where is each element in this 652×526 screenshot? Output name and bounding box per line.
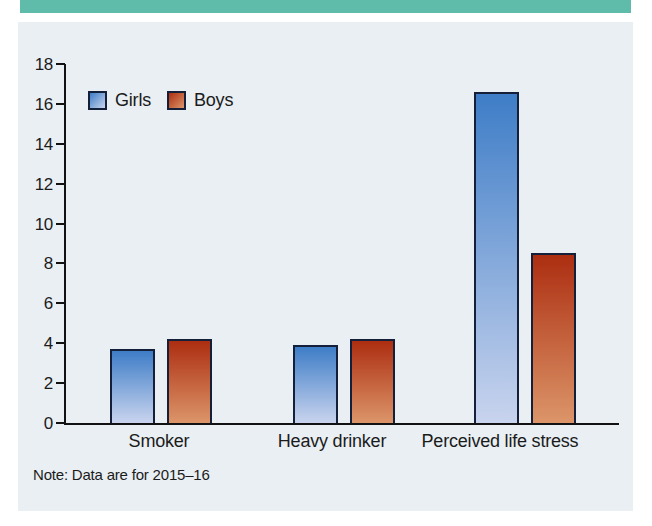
y-tick-label: 0	[13, 415, 53, 432]
y-tick-label: 2	[13, 375, 53, 392]
bar-girls-heavy-drinker	[293, 345, 338, 423]
y-tick-label: 16	[13, 96, 53, 113]
y-axis-tick	[56, 262, 65, 264]
bar-boys-smoker	[167, 339, 212, 423]
bar-girls-smoker	[110, 349, 155, 423]
y-axis-tick	[56, 143, 65, 145]
chart-panel: GirlsBoys 024681012141618SmokerHeavy dri…	[18, 22, 633, 511]
y-tick-label: 12	[13, 176, 53, 193]
y-axis-tick	[56, 302, 65, 304]
y-tick-label: 18	[13, 56, 53, 73]
y-tick-label: 14	[13, 136, 53, 153]
bar-girls-perceived-life-stress	[474, 92, 519, 423]
bar-boys-heavy-drinker	[350, 339, 395, 423]
y-tick-label: 4	[13, 335, 53, 352]
y-tick-label: 8	[13, 255, 53, 272]
y-axis-tick	[56, 422, 65, 424]
plot-area: 024681012141618SmokerHeavy drinkerPercei…	[65, 64, 618, 423]
y-axis-tick	[56, 382, 65, 384]
y-axis-tick	[56, 223, 65, 225]
top-accent-band	[20, 0, 631, 13]
bar-boys-perceived-life-stress	[531, 253, 576, 423]
page: GirlsBoys 024681012141618SmokerHeavy dri…	[0, 0, 652, 526]
y-tick-label: 10	[13, 216, 53, 233]
y-axis-tick	[56, 183, 65, 185]
category-label-smoker: Smoker	[129, 431, 190, 452]
category-label-perceived-life-stress: Perceived life stress	[422, 431, 579, 452]
x-axis	[64, 423, 619, 425]
y-tick-label: 6	[13, 295, 53, 312]
y-axis	[64, 64, 66, 423]
y-axis-tick	[56, 342, 65, 344]
category-label-heavy-drinker: Heavy drinker	[278, 431, 386, 452]
y-axis-tick	[56, 63, 65, 65]
y-axis-tick	[56, 103, 65, 105]
chart-note: Note: Data are for 2015–16	[33, 466, 210, 483]
